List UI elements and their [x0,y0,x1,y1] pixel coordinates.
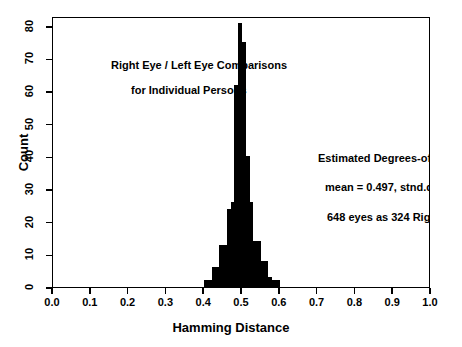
y-axis-tick [46,26,52,28]
x-axis-tick-label: 1.0 [410,296,450,308]
x-axis-tick-label: 0.1 [70,296,110,308]
y-axis-tick-label: 50 [23,111,35,137]
x-axis-tick [240,288,242,294]
x-axis-tick-label: 0.6 [259,296,299,308]
x-axis-tick-label: 0.4 [183,296,223,308]
histogram-figure: Right Eye / Left Eye Comparisons for Ind… [0,0,462,347]
x-axis-tick [202,288,204,294]
y-axis-tick [46,222,52,224]
x-axis-tick-label: 0.5 [221,296,261,308]
y-axis-tick [46,157,52,159]
x-axis-tick-label: 0.2 [108,296,148,308]
annotation-degrees-of-freedom: Estimated Degrees-of-Freedom: 259 [318,152,430,164]
x-axis-tick [127,288,129,294]
chart-title-line-1: Right Eye / Left Eye Comparisons [111,59,287,71]
chart-title-line-2: for Individual Persons [131,84,247,96]
y-axis-tick-label: 30 [23,176,35,202]
y-axis-tick [46,91,52,93]
x-axis-tick [316,288,318,294]
x-axis-tick-label: 0.7 [297,296,337,308]
y-axis-tick-label: 40 [23,143,35,169]
y-axis-tick-label: 70 [23,45,35,71]
x-axis-tick [429,288,431,294]
y-axis-tick-label: 0 [23,274,35,300]
x-axis-tick-label: 0.3 [145,296,185,308]
annotation-sample-size: 648 eyes as 324 Right/Left pairs [327,211,430,223]
y-axis-tick [46,255,52,257]
y-axis-tick-label: 20 [23,209,35,235]
x-axis-tick-label: 0.9 [372,296,412,308]
x-axis-tick [391,288,393,294]
x-axis-tick [278,288,280,294]
x-axis-label: Hamming Distance [0,320,462,335]
plot-area: Right Eye / Left Eye Comparisons for Ind… [52,17,430,288]
y-axis-tick-label: 60 [23,78,35,104]
x-axis-tick [165,288,167,294]
y-axis-tick-label: 10 [23,241,35,267]
y-axis-tick [46,124,52,126]
y-axis-tick [46,189,52,191]
x-axis-tick [51,288,53,294]
annotation-mean-stddev: mean = 0.497, stnd.dev. = 0.03108 [325,181,430,193]
x-axis-tick-label: 0.8 [334,296,374,308]
y-axis-tick-label: 80 [23,13,35,39]
x-axis-tick [354,288,356,294]
y-axis-tick [46,59,52,61]
x-axis-tick-label: 0.0 [32,296,72,308]
histogram-bar [276,280,280,287]
x-axis-tick [89,288,91,294]
y-axis-tick [46,287,52,289]
